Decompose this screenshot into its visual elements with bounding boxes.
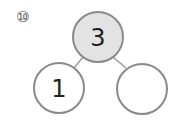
whole-value: 3	[90, 24, 105, 52]
connector-left	[74, 57, 83, 68]
part-circle-right-blank[interactable]	[117, 64, 167, 114]
number-bond-diagram: 3 1	[0, 0, 180, 121]
part-value-left: 1	[51, 75, 66, 103]
number-bond-problem: ⑩ 3 1	[0, 0, 180, 121]
connector-right	[113, 57, 126, 68]
